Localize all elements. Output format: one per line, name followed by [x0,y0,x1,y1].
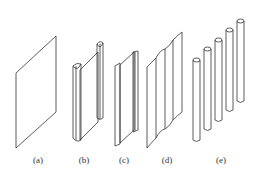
rod-3 [215,38,222,122]
rod-4 [226,28,233,112]
rod-5 [237,19,244,103]
rod-1 [193,58,200,142]
panel-label-b: (b) [79,155,90,165]
panel-c-flat-stiffened-plate [115,51,138,146]
panel-b-stiffened-plate [73,42,103,141]
panel-label-a: (a) [33,155,43,165]
rod-2 [204,47,211,131]
panel-label-c: (c) [119,155,129,165]
panel-e-rods [193,19,244,142]
panel-d-corrugated-plate [147,32,182,148]
figure-drawing [0,0,253,180]
panel-label-d: (d) [162,155,173,165]
panel-a-flat-plate [16,36,56,148]
panel-label-e: (e) [216,155,226,165]
